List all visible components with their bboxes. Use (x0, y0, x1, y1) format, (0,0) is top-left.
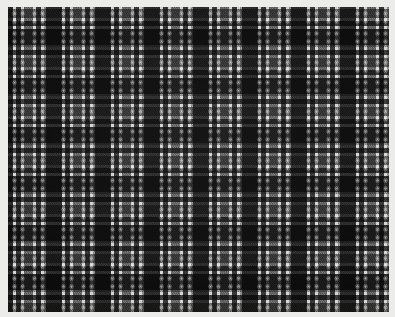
twill-texture-layer (8, 7, 389, 312)
warp-stripes-layer (8, 7, 389, 312)
tartan-swatch-image (0, 0, 395, 317)
crossing-highlight-layer (8, 7, 389, 312)
yarn-grain-layer (8, 7, 389, 312)
lighting-vignette-layer (8, 7, 389, 312)
weft-stripes-layer (8, 7, 389, 312)
yarn-interlace-layer (8, 7, 389, 312)
woven-cloth-area (8, 7, 389, 312)
